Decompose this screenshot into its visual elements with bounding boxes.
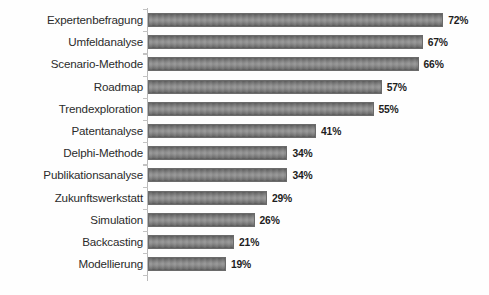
bar-fill [148, 235, 234, 249]
category-label: Trendexploration [59, 103, 143, 115]
category-label: Umfeldanalyse [68, 36, 143, 48]
bar-chart: Expertenbefragung72%Umfeldanalyse67%Scen… [0, 0, 489, 295]
bar-fill [148, 146, 287, 160]
category-label: Patentanalyse [71, 125, 143, 137]
bar-row: Patentanalyse41% [0, 120, 489, 142]
bar-fill [148, 80, 382, 94]
category-label: Roadmap [94, 81, 143, 93]
value-label: 57% [387, 81, 407, 92]
axis-tick [143, 120, 148, 121]
value-label: 34% [292, 170, 312, 181]
bar-row: Roadmap57% [0, 76, 489, 98]
value-label: 66% [424, 59, 444, 70]
bar [148, 57, 419, 71]
bar-row: Delphi-Methode34% [0, 142, 489, 164]
bar-fill [148, 35, 423, 49]
bar-fill [148, 257, 226, 271]
value-label: 41% [321, 126, 341, 137]
value-label: 21% [239, 236, 259, 247]
bar-row: Umfeldanalyse67% [0, 31, 489, 53]
category-label: Expertenbefragung [47, 14, 143, 26]
value-label: 26% [260, 214, 280, 225]
axis-tick [143, 53, 148, 54]
category-label: Scenario-Methode [51, 59, 143, 71]
bar-row: Scenario-Methode66% [0, 53, 489, 75]
bar [148, 235, 234, 249]
bar-row: Expertenbefragung72% [0, 9, 489, 31]
axis-tick [143, 98, 148, 99]
bar-fill [148, 168, 287, 182]
bar-row: Zukunftswerkstatt29% [0, 187, 489, 209]
bar-fill [148, 13, 443, 27]
bar-fill [148, 213, 255, 227]
bar-row: Trendexploration55% [0, 98, 489, 120]
bar-rows-container: Expertenbefragung72%Umfeldanalyse67%Scen… [0, 9, 489, 275]
value-label: 34% [292, 148, 312, 159]
bar [148, 191, 267, 205]
bar-fill [148, 57, 419, 71]
bar [148, 13, 443, 27]
category-label: Zukunftswerkstatt [55, 192, 143, 204]
value-label: 67% [428, 37, 448, 48]
category-label: Publikationsanalyse [43, 170, 143, 182]
value-label: 55% [379, 103, 399, 114]
category-label: Backcasting [82, 236, 143, 248]
category-label: Simulation [90, 214, 143, 226]
bar [148, 80, 382, 94]
category-label: Delphi-Methode [63, 147, 143, 159]
value-label: 29% [272, 192, 292, 203]
axis-tick [143, 187, 148, 188]
plot-area: Expertenbefragung72%Umfeldanalyse67%Scen… [0, 0, 489, 295]
bar [148, 168, 287, 182]
axis-tick [143, 209, 148, 210]
axis-tick [143, 275, 148, 276]
axis-tick [143, 9, 148, 10]
bar [148, 257, 226, 271]
bar-fill [148, 191, 267, 205]
bar [148, 102, 374, 116]
axis-tick [143, 31, 148, 32]
bar [148, 146, 287, 160]
bar-row: Publikationsanalyse34% [0, 164, 489, 186]
bar-row: Backcasting21% [0, 231, 489, 253]
axis-tick [143, 76, 148, 77]
bar-row: Simulation26% [0, 209, 489, 231]
bar-row: Modellierung19% [0, 253, 489, 275]
axis-tick [143, 164, 148, 165]
value-label: 72% [448, 15, 468, 26]
axis-tick [143, 231, 148, 232]
bar [148, 213, 255, 227]
bar-fill [148, 102, 374, 116]
bar [148, 124, 316, 138]
bar-fill [148, 124, 316, 138]
category-label: Modellierung [78, 258, 143, 270]
bar [148, 35, 423, 49]
value-label: 19% [231, 259, 251, 270]
axis-tick [143, 253, 148, 254]
axis-tick [143, 142, 148, 143]
